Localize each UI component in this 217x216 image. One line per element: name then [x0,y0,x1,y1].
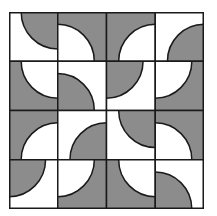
tile-pattern-svg [9,12,204,209]
tile-r0-c2 [107,12,156,61]
tile-r3-c1 [58,160,107,209]
tile-r2-c1 [58,111,107,160]
tile-r3-c2 [107,160,156,209]
tile-r3-c3 [155,160,204,209]
tile-r3-c0 [9,160,58,209]
tile-r0-c3 [155,12,204,61]
tile-r0-c1 [58,12,107,61]
tile-r2-c2 [107,111,156,160]
tile-r2-c3 [155,111,204,160]
tile-r1-c3 [155,61,204,110]
tile-r1-c1 [58,61,107,110]
tile-r0-c0 [9,12,58,61]
quarter-circle-tile-grid [9,12,204,209]
tile-r2-c0 [9,111,58,160]
tile-r1-c2 [107,61,156,110]
tile-r1-c0 [9,61,58,110]
